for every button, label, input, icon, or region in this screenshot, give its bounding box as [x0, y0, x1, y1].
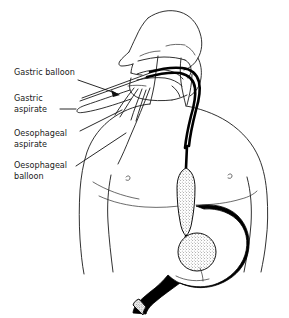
neck-outline — [150, 56, 186, 106]
label-gastric-aspirate-line1: Gastric — [14, 93, 43, 103]
nipple-right-mark — [228, 174, 232, 178]
medical-diagram-figure: Gastric balloon Gastric aspirate Oesopha… — [0, 0, 289, 318]
leader-oesophageal-balloon — [76, 133, 126, 166]
label-oesophageal-balloon-line1: Oesophageal — [14, 160, 67, 170]
oesophageal-balloon-body — [177, 168, 195, 236]
label-gastric-aspirate-line2: aspirate — [14, 104, 47, 114]
gastric-balloon-body — [178, 233, 216, 271]
nipple-left-mark — [126, 176, 130, 180]
diagram-canvas: Gastric balloon Gastric aspirate Oesopha… — [0, 0, 289, 318]
label-gastric-balloon: Gastric balloon — [14, 67, 75, 77]
tamponade-tube — [147, 68, 216, 281]
diagram-labels: Gastric balloon Gastric aspirate Oesopha… — [14, 67, 75, 181]
torso-outline — [79, 104, 267, 274]
label-oesophageal-aspirate-line2: aspirate — [14, 139, 47, 149]
label-oesophageal-aspirate-line1: Oesophageal — [14, 128, 67, 138]
nose-outline — [119, 52, 133, 66]
label-oesophageal-balloon-line2: balloon — [14, 171, 44, 181]
leader-lines — [60, 80, 126, 166]
